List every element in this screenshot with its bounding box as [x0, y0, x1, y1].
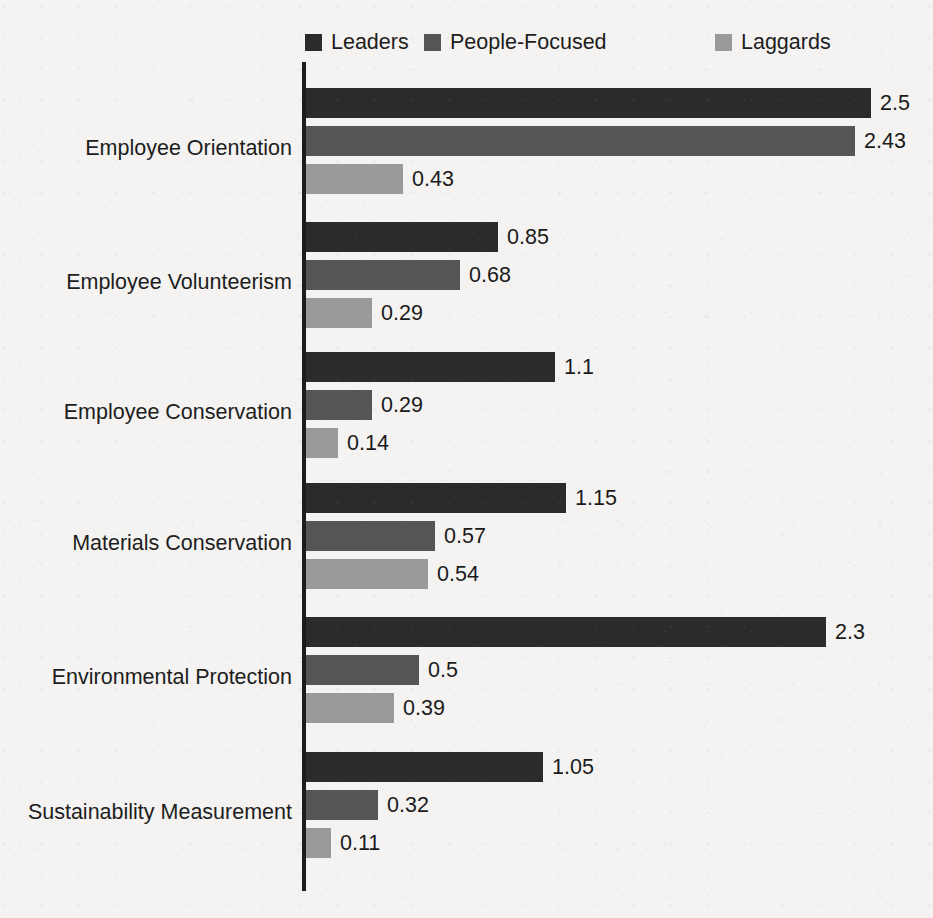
bar-value-label: 0.54: [437, 559, 479, 589]
bar-value-label: 0.43: [412, 164, 454, 194]
bar-people-focused[interactable]: [306, 390, 372, 420]
category-label: Environmental Protection: [0, 664, 292, 690]
bar-value-label: 1.1: [564, 352, 594, 382]
bar-value-label: 2.5: [880, 88, 910, 118]
bar-laggards[interactable]: [306, 828, 331, 858]
category-label: Sustainability Measurement: [0, 799, 292, 825]
category-label: Employee Conservation: [0, 399, 292, 425]
bar-leaders[interactable]: [306, 752, 543, 782]
bar-value-label: 0.5: [428, 655, 458, 685]
bar-group: Employee Orientation2.52.430.43: [0, 88, 933, 198]
category-label: Employee Orientation: [0, 135, 292, 161]
bar-value-label: 0.57: [444, 521, 486, 551]
category-label: Materials Conservation: [0, 530, 292, 556]
bar-laggards[interactable]: [306, 559, 428, 589]
bar-leaders[interactable]: [306, 617, 826, 647]
bar-laggards[interactable]: [306, 428, 338, 458]
bar-group: Environmental Protection2.30.50.39: [0, 617, 933, 727]
bar-value-label: 2.43: [864, 126, 906, 156]
bar-group: Materials Conservation1.150.570.54: [0, 483, 933, 593]
bar-people-focused[interactable]: [306, 655, 419, 685]
bar-group: Employee Volunteerism0.850.680.29: [0, 222, 933, 332]
bar-value-label: 0.85: [507, 222, 549, 252]
bar-value-label: 0.14: [347, 428, 389, 458]
chart-plot-area: Employee Orientation2.52.430.43Employee …: [0, 0, 933, 918]
bar-laggards[interactable]: [306, 693, 394, 723]
bar-people-focused[interactable]: [306, 521, 435, 551]
bar-people-focused[interactable]: [306, 790, 378, 820]
bar-group: Sustainability Measurement1.050.320.11: [0, 752, 933, 862]
bar-value-label: 1.05: [552, 752, 594, 782]
category-label: Employee Volunteerism: [0, 269, 292, 295]
bar-laggards[interactable]: [306, 164, 403, 194]
bar-group: Employee Conservation1.10.290.14: [0, 352, 933, 462]
bar-leaders[interactable]: [306, 483, 566, 513]
bar-value-label: 1.15: [575, 483, 617, 513]
bar-people-focused[interactable]: [306, 126, 855, 156]
bar-leaders[interactable]: [306, 222, 498, 252]
bar-people-focused[interactable]: [306, 260, 460, 290]
bar-leaders[interactable]: [306, 88, 871, 118]
bar-value-label: 0.29: [381, 298, 423, 328]
bar-value-label: 0.11: [340, 828, 380, 858]
bar-laggards[interactable]: [306, 298, 372, 328]
bar-value-label: 0.29: [381, 390, 423, 420]
bar-value-label: 0.68: [469, 260, 511, 290]
bar-value-label: 2.3: [835, 617, 865, 647]
bar-leaders[interactable]: [306, 352, 555, 382]
bar-value-label: 0.39: [403, 693, 445, 723]
chart-page: LeadersPeople-FocusedLaggards Employee O…: [0, 0, 933, 918]
bar-value-label: 0.32: [387, 790, 429, 820]
